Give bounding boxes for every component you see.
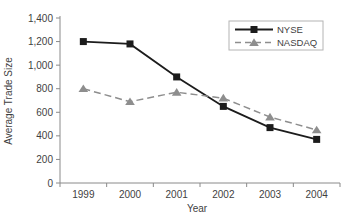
chart-canvas: 02004006008001,0001,2001,400199920002001… [0,0,347,224]
y-tick-label: 600 [36,107,53,118]
marker-nyse-2002 [220,103,227,110]
y-tick-label: 1,400 [28,13,53,24]
marker-nyse-2000 [127,40,134,47]
marker-nasdaq-2003 [265,113,275,121]
marker-nasdaq-2004 [312,126,322,134]
legend-label-nasdaq: NASDAQ [277,37,317,48]
legend-label-nyse: NYSE [277,24,303,35]
x-tick-label: 2002 [212,189,235,200]
marker-nasdaq-2002 [219,94,229,102]
y-tick-label: 800 [36,83,53,94]
x-axis-title: Year [187,203,208,214]
y-tick-label: 1,200 [28,36,53,47]
marker-nasdaq-2001 [172,88,182,96]
series-line-nasdaq [83,89,316,130]
x-tick-label: 2000 [119,189,142,200]
marker-nyse-1999 [80,38,87,45]
marker-nyse-2001 [173,73,180,80]
x-tick-label: 2001 [166,189,189,200]
marker-nasdaq-1999 [79,84,89,92]
x-tick-label: 1999 [72,189,95,200]
average-trade-size-chart: 02004006008001,0001,2001,400199920002001… [0,0,347,224]
y-axis-title: Average Trade Size [3,57,14,145]
chart-plot-area: 02004006008001,0001,2001,400199920002001… [28,13,340,201]
x-tick-label: 2003 [259,189,282,200]
y-tick-label: 0 [47,178,53,189]
y-tick-label: 400 [36,130,53,141]
y-tick-label: 200 [36,154,53,165]
y-tick-label: 1,000 [28,60,53,71]
x-tick-label: 2004 [306,189,329,200]
marker-nyse-2004 [313,136,320,143]
series-line-nyse [83,42,316,140]
marker-nyse-2003 [267,124,274,131]
legend-marker-nyse [251,26,258,33]
